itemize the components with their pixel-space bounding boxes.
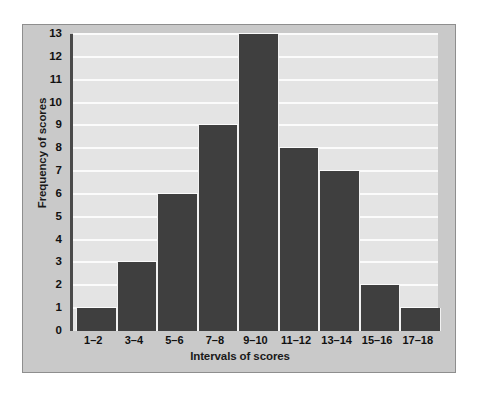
x-tick-label: 17–18: [397, 334, 438, 346]
bar[interactable]: [360, 285, 401, 331]
bar-slot: [319, 34, 360, 331]
x-tick-label: 5–6: [154, 334, 195, 346]
bar[interactable]: [238, 34, 279, 331]
y-tick-label: 7: [32, 165, 62, 177]
bar[interactable]: [319, 171, 360, 331]
y-tick-label: 9: [32, 119, 62, 131]
bar-slot: [279, 34, 320, 331]
y-tick-label: 3: [32, 256, 62, 268]
bars-layer: [76, 34, 438, 331]
bar[interactable]: [157, 194, 198, 331]
y-tick-label: 1: [32, 302, 62, 314]
bar-slot: [198, 34, 239, 331]
bar[interactable]: [117, 262, 158, 331]
x-tick-label: 13–14: [316, 334, 357, 346]
y-tick-label: 11: [32, 74, 62, 86]
bar[interactable]: [400, 308, 441, 331]
bar[interactable]: [198, 125, 239, 331]
y-tick-label: 12: [32, 51, 62, 63]
x-axis-title: Intervals of scores: [23, 350, 457, 362]
y-tick-label: 2: [32, 279, 62, 291]
bar-slot: [76, 34, 117, 331]
x-tick-label: 11–12: [276, 334, 317, 346]
y-tick-label: 8: [32, 142, 62, 154]
bar[interactable]: [279, 148, 320, 331]
bar-slot: [238, 34, 279, 331]
bar-slot: [117, 34, 158, 331]
bar-slot: [400, 34, 441, 331]
x-tick-label: 3–4: [114, 334, 155, 346]
y-tick-label: 6: [32, 188, 62, 200]
plot-area: [70, 34, 438, 331]
x-tick-label: 15–16: [357, 334, 398, 346]
y-tick-label: 0: [32, 325, 62, 337]
x-tick-label: 7–8: [195, 334, 236, 346]
bar[interactable]: [76, 308, 117, 331]
y-tick-label: 10: [32, 97, 62, 109]
y-tick-label: 13: [32, 28, 62, 40]
x-tick-label: 1–2: [73, 334, 114, 346]
bar-slot: [157, 34, 198, 331]
x-tick-label: 9–10: [235, 334, 276, 346]
y-tick-label: 5: [32, 211, 62, 223]
y-tick-label: 4: [32, 234, 62, 246]
histogram-figure-card: Frequency of scores 012345678910111213 1…: [22, 24, 456, 373]
bar-slot: [360, 34, 401, 331]
